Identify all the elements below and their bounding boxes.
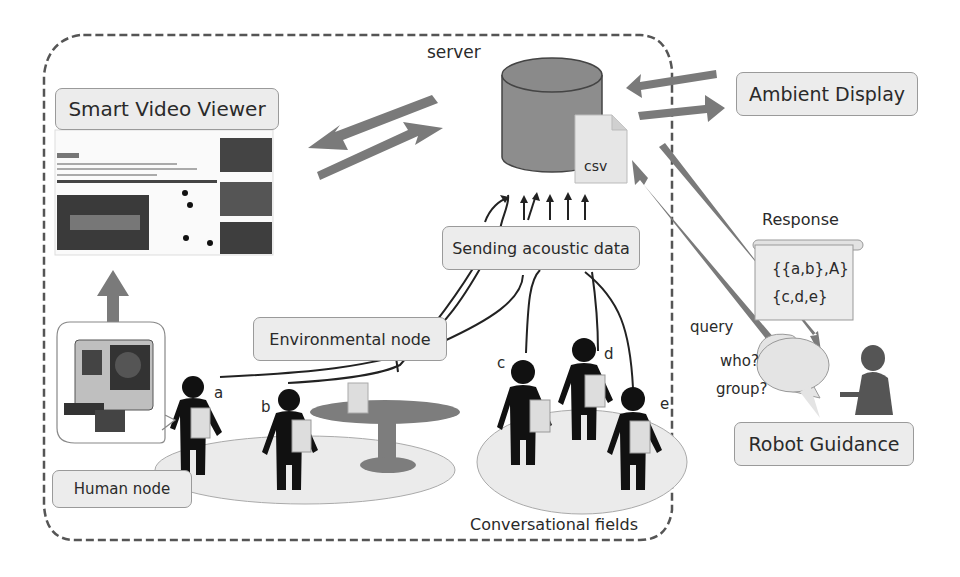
smart-video-viewer-box[interactable]: Smart Video Viewer bbox=[55, 88, 279, 130]
bubble-line-1: who? bbox=[720, 352, 759, 370]
response-line-1: {{a,b},A} bbox=[772, 260, 849, 278]
conversational-field-right bbox=[477, 410, 687, 514]
environmental-node-box[interactable]: Environmental node bbox=[253, 317, 447, 361]
response-scroll bbox=[753, 240, 863, 320]
human-node-box[interactable]: Human node bbox=[52, 470, 192, 508]
bubble-line-2: group? bbox=[716, 380, 768, 398]
person-label-d: d bbox=[604, 345, 614, 363]
sending-acoustic-data-box[interactable]: Sending acoustic data bbox=[442, 226, 640, 270]
person-label-c: c bbox=[497, 354, 505, 372]
response-label: Response bbox=[762, 210, 839, 229]
person-label-b: b bbox=[261, 398, 271, 416]
action-camera-icon bbox=[57, 322, 175, 443]
person-label-a: a bbox=[214, 384, 223, 402]
ambient-display-box[interactable]: Ambient Display bbox=[736, 72, 918, 116]
csv-label: csv bbox=[584, 158, 607, 174]
robot-icon bbox=[840, 345, 893, 415]
query-label: query bbox=[690, 318, 733, 336]
acoustic-arrowheads bbox=[500, 192, 589, 203]
video-viewer-screenshot bbox=[55, 130, 273, 255]
person-label-e: e bbox=[660, 395, 669, 413]
response-line-2: {c,d,e} bbox=[772, 288, 828, 306]
robot-guidance-box[interactable]: Robot Guidance bbox=[734, 422, 914, 466]
server-label: server bbox=[427, 42, 481, 62]
conversational-fields-label: Conversational fields bbox=[470, 515, 638, 534]
